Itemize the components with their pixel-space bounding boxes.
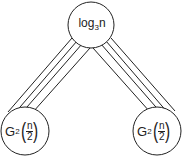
left-paren: ( [153, 120, 158, 142]
top-node-label: log3n [72, 16, 112, 32]
top-node-label-base: log [78, 16, 94, 30]
left-fraction-denominator: 2 [27, 132, 33, 142]
left-node-label: G2 ( n 2 ) [5, 120, 40, 142]
left-paren: ( [21, 120, 26, 142]
right-paren: ) [166, 120, 171, 142]
left-node-label-sub: 2 [15, 127, 19, 136]
right-node-label-sub: 2 [147, 127, 151, 136]
right-node-label-base: G [137, 124, 147, 139]
right-fraction-denominator: 2 [159, 132, 165, 142]
right-paren: ) [34, 120, 39, 142]
edge-left [8, 38, 90, 115]
right-node-label: G2 ( n 2 ) [137, 120, 172, 142]
top-node-label-tail: n [99, 16, 106, 30]
left-node-label-base: G [5, 124, 15, 139]
edge-right [93, 38, 175, 114]
